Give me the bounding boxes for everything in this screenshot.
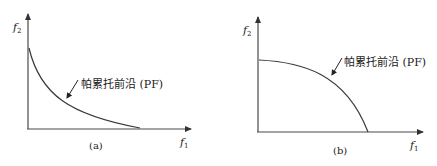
pareto-front-diagram: 帕累托前沿 (PF) f2 f1 (a) 帕累托前沿 (PF) f2 f1 (b… [0, 0, 437, 166]
curve-label-a: 帕累托前沿 (PF) [81, 77, 163, 91]
pointer-arrow-a [67, 80, 78, 98]
panel-b: 帕累托前沿 (PF) f2 f1 (b) [242, 17, 426, 156]
pointer-arrow-b [332, 58, 342, 75]
y-axis-label-a: f2 [12, 21, 22, 35]
caption-a: (a) [89, 140, 103, 151]
x-axis-label-a: f1 [179, 136, 189, 150]
x-axis-label-b: f1 [409, 139, 419, 153]
caption-b: (b) [333, 145, 347, 156]
panel-a: 帕累托前沿 (PF) f2 f1 (a) [12, 14, 191, 151]
pareto-curve-b [259, 60, 368, 132]
curve-label-b: 帕累托前沿 (PF) [344, 55, 426, 69]
y-axis-label-b: f2 [242, 24, 252, 38]
